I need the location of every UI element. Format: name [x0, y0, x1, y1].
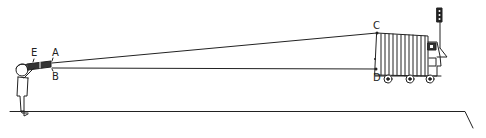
diagram-svg	[0, 0, 486, 138]
label-e: E	[31, 48, 37, 58]
point-c	[376, 32, 379, 35]
sight-line-lower	[52, 68, 376, 69]
truck	[375, 33, 441, 83]
tick-a	[52, 58, 53, 61]
observer-figure	[16, 61, 51, 116]
sight-line-upper	[52, 33, 377, 63]
ground-line	[10, 112, 473, 129]
diagram-canvas: E A B C D	[0, 0, 486, 138]
label-a: A	[52, 48, 59, 58]
label-d: D	[373, 73, 381, 83]
label-c: C	[373, 21, 380, 31]
label-b: B	[52, 72, 59, 82]
point-d	[375, 68, 378, 71]
tick-e	[33, 59, 34, 62]
